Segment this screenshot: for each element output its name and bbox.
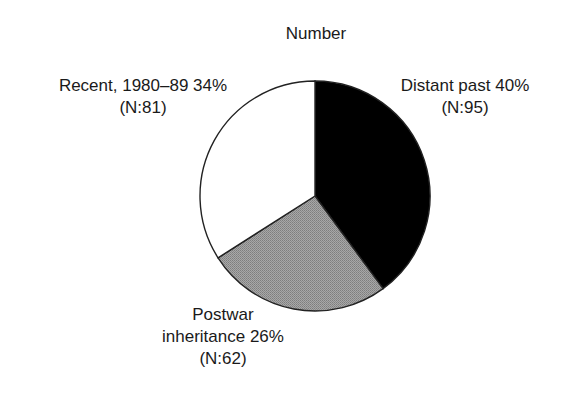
slice-label-postwar: Postwar inheritance 26% (N:62) <box>133 304 313 370</box>
slice-label-postwar-count: (N:62) <box>133 348 313 370</box>
slice-label-postwar-line1: Postwar <box>133 304 313 326</box>
slice-label-postwar-line2: inheritance 26% <box>133 326 313 348</box>
slice-label-distant-past-line1: Distant past 40% <box>375 75 555 97</box>
slice-label-distant-past-count: (N:95) <box>375 97 555 119</box>
slice-label-recent-line1: Recent, 1980–89 34% <box>33 75 253 97</box>
slice-label-recent-count: (N:81) <box>33 97 253 119</box>
slice-label-recent: Recent, 1980–89 34% (N:81) <box>33 75 253 119</box>
slice-label-distant-past: Distant past 40% (N:95) <box>375 75 555 119</box>
